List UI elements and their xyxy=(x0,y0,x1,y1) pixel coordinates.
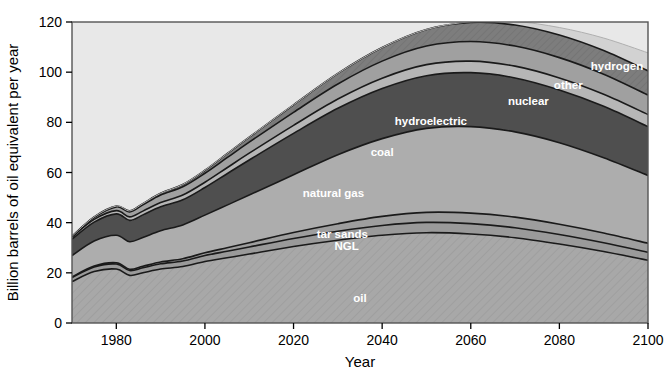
y-tick-label: 20 xyxy=(46,265,62,281)
y-axis-title: Billion barrels of oil equivalent per ye… xyxy=(4,44,21,302)
x-axis-title: Year xyxy=(345,353,375,370)
series-label-tar-sands: tar sands xyxy=(317,228,368,240)
series-label-oil: oil xyxy=(353,292,366,304)
y-tick-label: 0 xyxy=(54,315,62,331)
series-label-hydroelectric: hydroelectric xyxy=(395,115,468,127)
series-label-NGL: NGL xyxy=(335,240,359,252)
series-label-nuclear: nuclear xyxy=(508,95,549,107)
stacked-area-chart: 1980200020202040206020802100020406080100… xyxy=(0,0,671,376)
x-tick-label: 2020 xyxy=(278,332,309,348)
y-tick-label: 60 xyxy=(46,165,62,181)
x-tick-label: 2060 xyxy=(455,332,486,348)
x-tick-label: 2080 xyxy=(544,332,575,348)
series-label-hydrogen: hydrogen xyxy=(591,60,643,72)
series-label-natural-gas: natural gas xyxy=(303,187,364,199)
y-tick-label: 100 xyxy=(39,64,63,80)
x-tick-label: 2000 xyxy=(189,332,220,348)
chart-container: 1980200020202040206020802100020406080100… xyxy=(0,0,671,376)
x-tick-label: 2040 xyxy=(367,332,398,348)
y-tick-label: 80 xyxy=(46,114,62,130)
series-label-other: other xyxy=(554,79,583,91)
y-tick-label: 120 xyxy=(39,14,63,30)
x-tick-label: 1980 xyxy=(101,332,132,348)
x-tick-label: 2100 xyxy=(632,332,663,348)
y-tick-label: 40 xyxy=(46,215,62,231)
series-label-coal: coal xyxy=(371,146,394,158)
